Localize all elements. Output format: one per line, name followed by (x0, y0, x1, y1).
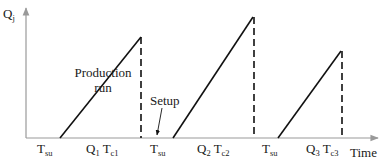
cycle-time-label-2: T (214, 141, 222, 156)
svg-text:Q2Tc2: Q2Tc2 (197, 141, 230, 158)
setup-time-label-3: T (262, 141, 270, 156)
setup-time-label-2: T (150, 141, 158, 156)
production-ramp-2 (173, 17, 253, 138)
svg-text:Tsu: Tsu (262, 141, 278, 158)
production-run-label-line1: Production (74, 65, 132, 80)
production-ramp-3 (278, 51, 341, 138)
svg-text:Qj: Qj (3, 6, 15, 23)
svg-text:Q3Tc3: Q3Tc3 (306, 141, 339, 158)
x-axis-label: Time (350, 145, 377, 160)
svg-text:Q1Tc1: Q1Tc1 (86, 141, 119, 158)
setup-label: Setup (150, 93, 180, 108)
production-cycle-diagram: Qj Time Production run Setup Tsu Q1Tc1 T… (0, 0, 388, 164)
svg-text:Tsu: Tsu (37, 141, 53, 158)
setup-arrow (157, 108, 162, 135)
setup-time-label-1: T (37, 141, 45, 156)
svg-text:Tsu: Tsu (150, 141, 166, 158)
production-run-label-line2: run (94, 80, 112, 95)
y-axis-subscript: j (11, 13, 14, 23)
cycle-time-label-1: T (103, 141, 111, 156)
cycle-time-label-3: T (323, 141, 331, 156)
